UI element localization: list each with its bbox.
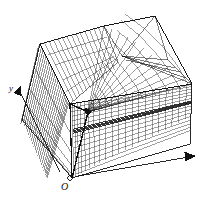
mesh-figure: y x O (0, 0, 210, 198)
y-axis-label: y (9, 84, 13, 93)
origin-label: O (61, 182, 68, 192)
x-axis-label: x (188, 152, 192, 161)
mesh-canvas (0, 0, 210, 198)
